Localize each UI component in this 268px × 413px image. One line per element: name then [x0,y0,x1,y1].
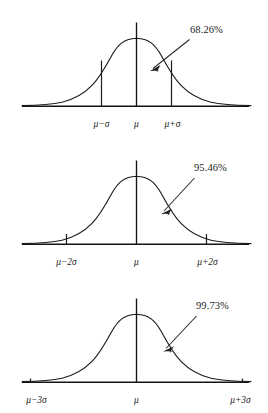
axis-label-left-2: μ−2σ [55,257,77,267]
annotation-percent-3: 99.73% [196,300,229,311]
axis-label-right-3: μ+3σ [229,395,251,405]
annotation-percent-1: 68.26% [190,24,223,35]
axis-label-center-2: μ [133,257,139,267]
axis-label-left-1: μ−σ [93,119,110,129]
annotation-arrow-head-2 [161,209,172,216]
axis-label-right-1: μ+σ [164,119,181,129]
normal-curve-panel-2-sigma: 95.46% μ−2σ μ μ+2σ [0,138,268,275]
normal-distribution-figure: 68.26% μ−σ μ μ+σ 95.46% μ−2σ μ μ+2σ [0,0,268,413]
normal-curve-panel-1-sigma: 68.26% μ−σ μ μ+σ [0,0,268,137]
axis-label-center-1: μ [133,119,139,129]
annotation-leader-line-2 [164,178,195,211]
axis-label-right-2: μ+2σ [196,257,218,267]
axis-label-left-3: μ−3σ [25,395,47,405]
annotation-percent-2: 95.46% [194,162,227,173]
annotation-leader-line-3 [166,316,197,349]
normal-curve-panel-3-sigma: 99.73% μ−3σ μ μ+3σ [0,276,268,413]
axis-label-center-3: μ [133,395,139,405]
